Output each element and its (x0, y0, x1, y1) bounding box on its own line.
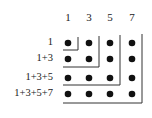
dots (65, 40, 136, 98)
dot-square-diagram (0, 0, 152, 118)
